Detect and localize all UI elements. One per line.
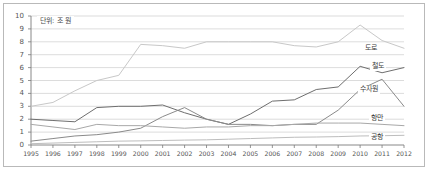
y-tick-label: 7 <box>10 51 24 59</box>
y-tick-label: 2 <box>10 115 24 123</box>
y-tick-label: 3 <box>10 102 24 110</box>
series-line-항만 <box>31 123 404 129</box>
series-label-철도: 철도 <box>370 62 386 71</box>
series-label-공항: 공항 <box>369 133 385 142</box>
y-tick-label: 8 <box>10 38 24 46</box>
y-tick-label: 0 <box>10 141 24 149</box>
x-tick-label: 2012 <box>391 150 417 158</box>
series-label-수자원: 수자원 <box>358 85 380 94</box>
y-tick-label: 1 <box>10 128 24 136</box>
y-tick-label: 9 <box>10 25 24 33</box>
y-tick-label: 4 <box>10 89 24 97</box>
y-tick-label: 5 <box>10 77 24 85</box>
series-label-도로: 도로 <box>363 44 379 53</box>
chart-container: 012345678910 199519961997199819992000200… <box>0 0 428 170</box>
data-series-group <box>31 25 404 144</box>
y-tick-label: 6 <box>10 64 24 72</box>
series-line-공항 <box>31 135 404 143</box>
unit-note-label: 단위: 조 원 <box>37 16 74 27</box>
axis-group <box>28 16 31 145</box>
y-tick-label: 10 <box>10 12 24 20</box>
series-line-도로 <box>31 25 404 106</box>
gridlines-group <box>31 16 404 145</box>
series-line-철도 <box>31 66 404 124</box>
series-label-항만: 항만 <box>369 114 385 123</box>
